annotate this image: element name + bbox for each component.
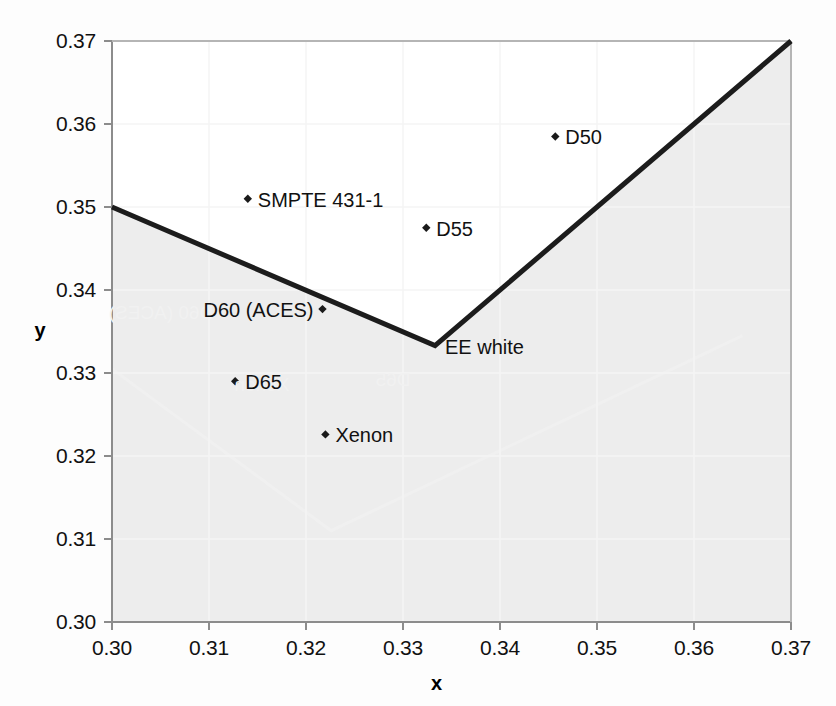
x-tick-label: 0.33 — [383, 636, 423, 660]
x-tick-label: 0.32 — [286, 636, 326, 660]
ghost-label: D65 — [376, 369, 411, 391]
y-tick-label: 0.36 — [0, 112, 96, 136]
y-tick-label: 0.37 — [0, 29, 96, 53]
point-label: Xenon — [335, 424, 393, 447]
plot-canvas — [0, 0, 836, 706]
point-label: D65 — [245, 371, 282, 394]
point-label: D60 (ACES) — [203, 299, 313, 322]
y-axis-title: y — [34, 319, 45, 342]
chromaticity-chart: 0.300.310.320.330.340.350.360.370.300.31… — [0, 0, 836, 706]
y-tick-label: 0.31 — [0, 527, 96, 551]
y-tick-label: 0.32 — [0, 444, 96, 468]
point-label: EE white — [445, 335, 524, 358]
x-tick-label: 0.35 — [577, 636, 617, 660]
x-tick-label: 0.31 — [189, 636, 229, 660]
ghost-label: D60 (ACES) — [108, 302, 213, 324]
y-tick-label: 0.34 — [0, 278, 96, 302]
x-tick-label: 0.34 — [480, 636, 520, 660]
point-label: SMPTE 431-1 — [258, 188, 384, 211]
x-tick-label: 0.37 — [771, 636, 811, 660]
x-tick-label: 0.36 — [674, 636, 714, 660]
point-label: D55 — [436, 217, 473, 240]
point-label: D50 — [565, 126, 602, 149]
y-tick-label: 0.33 — [0, 361, 96, 385]
y-tick-label: 0.35 — [0, 195, 96, 219]
x-tick-label: 0.30 — [92, 636, 132, 660]
x-axis-title: x — [431, 672, 442, 695]
y-tick-label: 0.30 — [0, 610, 96, 634]
